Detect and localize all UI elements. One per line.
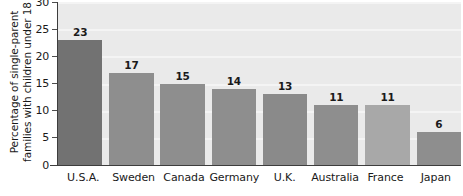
y-axis-tick: 30 xyxy=(35,0,58,8)
bar-value-label: 17 xyxy=(109,59,153,71)
bar[interactable] xyxy=(417,132,461,165)
bar[interactable] xyxy=(109,73,153,165)
x-axis-labels: U.S.A.SwedenCanadaGermanyU.K.AustraliaFr… xyxy=(58,171,461,184)
y-axis-ticks: 302520151050 xyxy=(0,0,58,196)
bar[interactable] xyxy=(314,105,358,165)
y-axis-tick: 20 xyxy=(35,50,58,62)
bar-value-label: 13 xyxy=(263,80,307,92)
bars-group: 231715141311116 xyxy=(58,2,461,165)
bar-slot: 6 xyxy=(417,2,461,165)
x-axis-tick-label: Sweden xyxy=(108,171,158,184)
y-axis-tick: 10 xyxy=(35,105,58,117)
bar-slot: 11 xyxy=(365,2,409,165)
y-axis-tick: 15 xyxy=(35,78,58,90)
y-axis-tick-label: 0 xyxy=(42,159,49,172)
bar[interactable] xyxy=(365,105,409,165)
y-axis-tick: 5 xyxy=(42,132,58,144)
bar-chart: Percentage of single-parent families wit… xyxy=(0,0,463,196)
y-axis-tick-label: 10 xyxy=(35,104,49,117)
bar-slot: 23 xyxy=(58,2,102,165)
bar-slot: 11 xyxy=(314,2,358,165)
bar-value-label: 11 xyxy=(314,91,358,103)
bar[interactable] xyxy=(58,40,102,165)
bar-value-label: 6 xyxy=(417,118,461,130)
bar[interactable] xyxy=(263,94,307,165)
x-axis-tick-label: Germany xyxy=(209,171,259,184)
bar[interactable] xyxy=(160,84,204,166)
bar-slot: 14 xyxy=(212,2,256,165)
y-axis-tick-label: 20 xyxy=(35,50,49,63)
y-axis-tick-label: 30 xyxy=(35,0,49,9)
x-axis-tick-label: Australia xyxy=(310,171,360,184)
y-axis-tick: 25 xyxy=(35,23,58,35)
y-axis-tick-label: 5 xyxy=(42,131,49,144)
bar[interactable] xyxy=(212,89,256,165)
bar-value-label: 23 xyxy=(58,26,102,38)
bar-value-label: 14 xyxy=(212,75,256,87)
bar-slot: 13 xyxy=(263,2,307,165)
x-axis-tick-label: France xyxy=(360,171,410,184)
y-axis-tick-label: 15 xyxy=(35,77,49,90)
x-axis-tick-label: U.S.A. xyxy=(58,171,108,184)
bar-slot: 15 xyxy=(160,2,204,165)
y-axis-tick-label: 25 xyxy=(35,23,49,36)
x-axis-line xyxy=(50,165,461,166)
x-axis-tick-label: Japan xyxy=(411,171,461,184)
x-axis-tick-label: U.K. xyxy=(260,171,310,184)
bar-value-label: 11 xyxy=(365,91,409,103)
x-axis-tick-label: Canada xyxy=(159,171,209,184)
bar-slot: 17 xyxy=(109,2,153,165)
y-axis-line xyxy=(57,2,58,166)
bar-value-label: 15 xyxy=(160,70,204,82)
plot-area: 231715141311116 xyxy=(58,2,461,165)
